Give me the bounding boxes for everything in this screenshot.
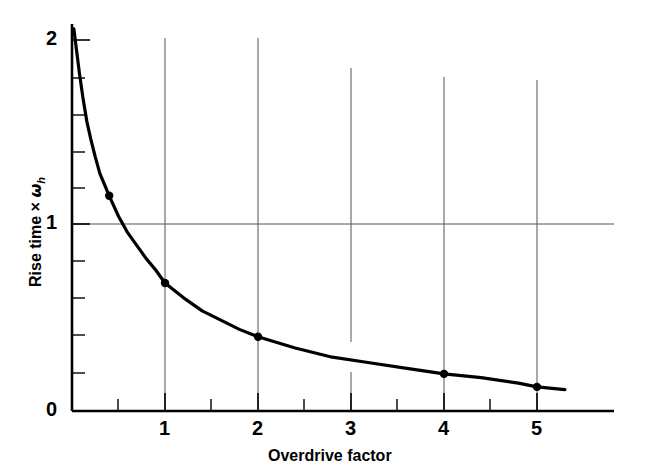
y-axis-label-subscript: h — [35, 177, 47, 184]
chart-figure: 2 1 0 1 2 3 4 5 Overdrive factor Rise ti… — [0, 0, 659, 471]
y-axis-label: Rise time × ωh — [26, 177, 47, 287]
chart-background — [0, 0, 659, 471]
data-point-marker — [254, 333, 262, 341]
x-tick-label-5: 5 — [531, 418, 542, 438]
y-axis-label-space — [27, 198, 44, 202]
y-axis-label-operator — [27, 211, 44, 215]
y-tick-label-0: 0 — [46, 399, 57, 419]
y-axis-label-times-symbol: × — [27, 202, 44, 211]
y-axis-label-text: Rise time — [27, 216, 44, 287]
data-point-marker — [440, 370, 448, 378]
x-tick-label-3: 3 — [345, 418, 356, 438]
data-point-marker — [533, 383, 541, 391]
x-tick-label-1: 1 — [159, 418, 170, 438]
x-tick-label-4: 4 — [438, 418, 449, 438]
y-axis-label-omega: ω — [26, 184, 45, 198]
data-point-marker — [105, 192, 113, 200]
data-point-marker — [161, 279, 169, 287]
y-tick-label-2: 2 — [46, 28, 57, 48]
y-tick-label-1: 1 — [46, 212, 57, 232]
x-axis-label: Overdrive factor — [268, 447, 392, 465]
x-tick-label-2: 2 — [252, 418, 263, 438]
chart-plot-area — [0, 0, 659, 471]
